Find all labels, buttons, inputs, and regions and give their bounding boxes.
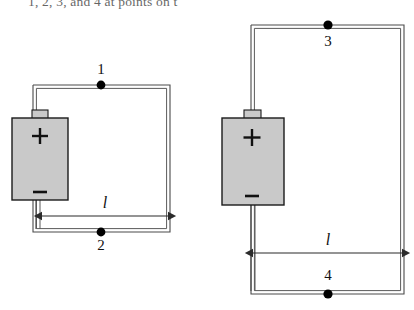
node-1-dot	[97, 81, 106, 90]
node-3-label: 3	[318, 34, 338, 49]
node-3-dot	[323, 20, 332, 29]
left-length-label: l	[95, 195, 115, 211]
right-circuit	[222, 20, 404, 298]
node-4-label: 4	[318, 268, 338, 283]
circuit-diagram-svg	[0, 0, 414, 310]
left-circuit	[12, 81, 170, 237]
node-1-label: 1	[91, 62, 111, 77]
right-length-label: l	[318, 232, 338, 248]
node-2-dot	[97, 228, 106, 237]
node-4-dot	[323, 289, 332, 298]
circuit-figure: 1, 2, 3, and 4 at points on t	[0, 0, 414, 310]
node-2-label: 2	[91, 238, 111, 253]
